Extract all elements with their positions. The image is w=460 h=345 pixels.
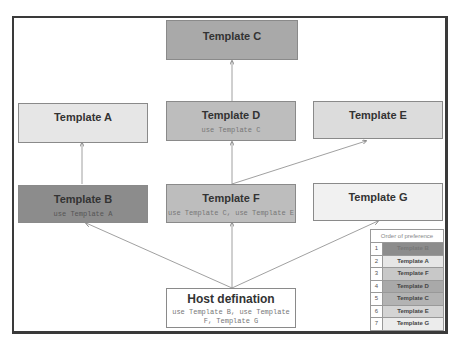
node-template-a: Template A <box>18 103 148 143</box>
legend-rank: 2 <box>371 256 383 268</box>
legend-label: Template C <box>383 293 443 305</box>
legend-title: Order of preference <box>371 230 443 243</box>
legend-label: Template G <box>383 318 443 330</box>
node-title: Template B <box>19 193 147 205</box>
legend-rank: 6 <box>371 306 383 318</box>
node-subtitle: use Template A <box>19 210 147 219</box>
legend-rank: 3 <box>371 268 383 280</box>
legend-rank: 5 <box>371 293 383 305</box>
node-title: Template G <box>314 191 442 203</box>
node-title: Template D <box>167 109 295 121</box>
legend-rank: 4 <box>371 281 383 293</box>
node-host-definition: Host defination use Template B, use Temp… <box>166 288 296 328</box>
legend-row: 4 Template D <box>371 281 443 294</box>
legend-rank: 1 <box>371 243 383 255</box>
node-title: Template F <box>167 192 295 204</box>
legend-row: 3 Template F <box>371 268 443 281</box>
node-template-d: Template D use Template C <box>166 101 296 141</box>
node-title: Template A <box>19 111 147 123</box>
legend-row: 5 Template C <box>371 293 443 306</box>
legend-row: 7 Template G <box>371 318 443 330</box>
legend-label: Template D <box>383 281 443 293</box>
legend-row: 1 Template B <box>371 243 443 256</box>
legend-label: Template E <box>383 306 443 318</box>
arrow-f-to-e <box>232 141 366 184</box>
node-subtitle: use Template B, use Template F, Template… <box>167 308 295 326</box>
legend-label: Template B <box>383 243 443 255</box>
legend-row: 6 Template E <box>371 306 443 319</box>
legend-label: Template F <box>383 268 443 280</box>
node-template-g: Template G <box>313 183 443 221</box>
order-of-preference-table: Order of preference 1 Template B 2 Templ… <box>370 229 444 331</box>
node-subtitle: use Template C, use Template E <box>167 209 295 218</box>
node-template-c: Template C <box>166 20 298 60</box>
node-title: Template C <box>167 30 297 42</box>
arrow-host-to-g <box>232 221 378 288</box>
node-template-f: Template F use Template C, use Template … <box>166 184 296 223</box>
arrow-host-to-b <box>86 223 232 288</box>
node-title: Template E <box>314 109 442 121</box>
legend-label: Template A <box>383 256 443 268</box>
legend-row: 2 Template A <box>371 256 443 269</box>
node-subtitle: use Template C <box>167 126 295 135</box>
node-template-b: Template B use Template A <box>18 185 148 223</box>
node-title: Host defination <box>167 292 295 306</box>
node-template-e: Template E <box>313 101 443 139</box>
legend-rank: 7 <box>371 318 383 330</box>
